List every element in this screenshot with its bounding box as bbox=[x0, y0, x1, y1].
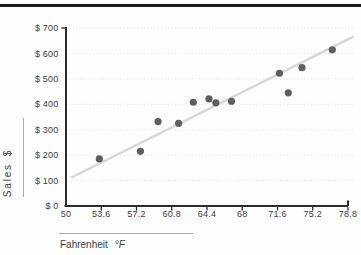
x-tick-label: 50 bbox=[61, 209, 71, 219]
x-axis-title-unit: °F bbox=[115, 239, 126, 250]
y-tick-labels: $ 0$ 100$ 200$ 300$ 400$ 500$ 600$ 700 bbox=[35, 23, 59, 211]
y-axis bbox=[62, 27, 67, 207]
y-tick-label: $ 0 bbox=[45, 201, 58, 211]
x-axis-title: Fahrenheit°F bbox=[59, 234, 193, 250]
data-point bbox=[190, 99, 197, 106]
data-point bbox=[285, 89, 292, 96]
scatter-chart: $ 0$ 100$ 200$ 300$ 400$ 500$ 600$ 700 5… bbox=[0, 0, 361, 255]
y-tick-label: $ 500 bbox=[35, 74, 59, 84]
data-point bbox=[276, 70, 283, 77]
y-tick-label: $ 600 bbox=[35, 49, 59, 59]
data-point bbox=[96, 155, 103, 162]
slide-canvas: $ 0$ 100$ 200$ 300$ 400$ 500$ 600$ 700 5… bbox=[0, 0, 361, 255]
y-tick-label: $ 700 bbox=[35, 23, 59, 33]
y-axis-title-unit: $ bbox=[2, 149, 13, 156]
y-tick-label: $ 300 bbox=[35, 125, 59, 135]
x-tick-label: 68 bbox=[237, 209, 247, 219]
x-axis bbox=[65, 201, 349, 207]
y-axis-title: Sales$ bbox=[2, 118, 24, 197]
x-tick-label: 57.2 bbox=[127, 209, 145, 219]
y-tick-label: $ 100 bbox=[35, 176, 59, 186]
y-axis-title-word: Sales bbox=[2, 163, 13, 197]
data-point bbox=[212, 99, 219, 106]
y-tick-label: $ 400 bbox=[35, 99, 59, 109]
x-tick-label: 71.6 bbox=[268, 209, 286, 219]
data-point bbox=[137, 148, 144, 155]
x-tick-label: 64.4 bbox=[198, 209, 216, 219]
x-tick-label: 53.6 bbox=[92, 209, 110, 219]
x-axis-title-word: Fahrenheit bbox=[60, 239, 108, 250]
x-tick-label: 78.8 bbox=[339, 209, 357, 219]
data-point bbox=[298, 64, 305, 71]
x-axis-title-text: Fahrenheit°F bbox=[60, 239, 126, 250]
data-point bbox=[228, 98, 235, 105]
x-tick-label: 60.8 bbox=[163, 209, 181, 219]
x-tick-label: 75.2 bbox=[304, 209, 322, 219]
data-point bbox=[175, 120, 182, 127]
data-point bbox=[329, 46, 336, 53]
x-tick-labels: 5053.657.260.864.46871.675.278.8 bbox=[61, 209, 357, 219]
data-point bbox=[154, 118, 161, 125]
y-tick-label: $ 200 bbox=[35, 150, 59, 160]
trend-line bbox=[72, 37, 353, 177]
data-point bbox=[205, 95, 212, 102]
y-axis-title-text: Sales$ bbox=[2, 149, 13, 197]
